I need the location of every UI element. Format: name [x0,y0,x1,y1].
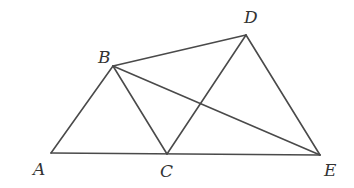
diagram-svg: A B C D E [0,0,354,188]
label-d: D [243,7,258,27]
segment-ae [51,153,320,155]
segment-de [246,35,320,155]
segment-bc [113,66,167,154]
label-e: E [323,160,337,180]
segments [51,35,320,155]
segment-bd [113,35,246,66]
label-c: C [160,161,173,181]
segment-ab [51,66,113,153]
geometry-diagram: A B C D E [0,0,354,188]
label-b: B [97,47,111,67]
label-a: A [31,159,45,179]
